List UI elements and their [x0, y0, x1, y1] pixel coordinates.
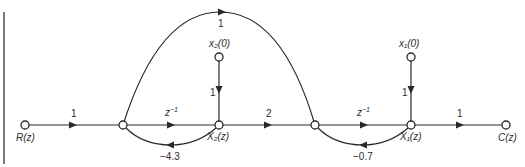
node-x20 [215, 53, 223, 61]
edge-label-A-X2: z−1 [164, 106, 178, 118]
node-label-X2: X₂(z) [206, 131, 229, 142]
arrow-icon [408, 86, 415, 94]
arrow-icon [167, 122, 175, 129]
edge-label-X2-B: 2 [266, 108, 272, 119]
node-X1 [407, 121, 415, 129]
arrow-icon [264, 122, 272, 129]
arrow-icon [456, 122, 464, 129]
arrow-icon [166, 142, 174, 149]
node-R [21, 121, 29, 129]
edge-X2-A-feedback [126, 128, 216, 145]
arrow-icon [216, 86, 223, 94]
arrow-icon [360, 122, 368, 129]
node-A [119, 121, 127, 129]
node-label-x20: x₂(0) [208, 38, 230, 49]
node-label-R: R(z) [16, 132, 35, 143]
arrow-icon [359, 142, 367, 149]
node-x10 [407, 53, 415, 61]
edge-label-B-X1: z−1 [356, 106, 370, 118]
arrow-icon [218, 9, 226, 16]
node-label-X1: X₁(z) [399, 131, 421, 142]
edge-X1-B-feedback [318, 128, 408, 145]
edge-label-x10-X1: 1 [402, 87, 408, 98]
arrow-icon [69, 122, 77, 129]
edge-label-X1-B: −0.7 [353, 151, 373, 162]
signal-flow-graph: 1 1 z−1 2 z−1 1 −4.3 −0.7 1 1 R(z) X₂(z)… [0, 0, 525, 167]
edge-label-R-A: 1 [71, 108, 77, 119]
node-C [502, 121, 510, 129]
node-label-C: C(z) [498, 132, 517, 143]
node-label-x10: x₁(0) [398, 38, 419, 49]
edge-label-x20-X2: 1 [210, 87, 216, 98]
edge-label-X1-C: 1 [457, 108, 463, 119]
edge-label-X2-A: −4.3 [160, 151, 180, 162]
edge-label-A-B: 1 [218, 18, 224, 29]
node-B [311, 121, 319, 129]
node-X2 [215, 121, 223, 129]
